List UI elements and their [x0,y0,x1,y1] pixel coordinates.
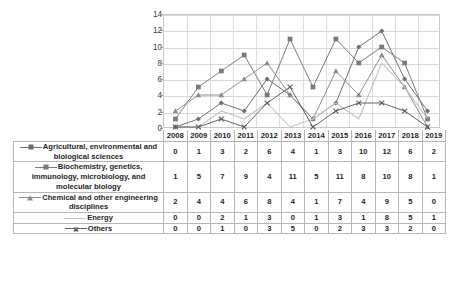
y-axis-tick-mark [160,47,163,48]
table-cell: 0 [164,213,188,224]
y-axis-tick-mark [160,30,163,31]
legend-swatch: ✖ [65,225,87,232]
series-marker [196,85,201,90]
table-cell: 2 [399,223,423,234]
table-cell: 8 [375,213,399,224]
table-corner-cell [14,130,164,142]
table-cell: 0 [422,223,446,234]
table-cell: 4 [211,192,235,212]
table-cell: 0 [187,223,211,234]
table-cell: 1 [211,223,235,234]
table-cell: 1 [422,213,446,224]
table-cell: 4 [258,162,282,192]
series-marker [379,52,385,57]
table-cell: 0 [187,213,211,224]
table-cell: 1 [422,162,446,192]
x-marker-icon: ✖ [73,225,79,232]
table-column-header-2017: 2017 [375,130,399,142]
table-cell: 1 [305,213,329,224]
series-marker [288,37,293,42]
table-cell: 4 [281,142,305,162]
table-cell: 3 [328,213,352,224]
table-cell: 4 [352,192,376,212]
series-marker [379,45,384,50]
table-cell: 2 [234,142,258,162]
series-label-cell: Agricultural, environmental and biologic… [14,142,164,162]
series-marker [333,37,338,42]
table-cell: 0 [422,192,446,212]
table-cell: 3 [328,142,352,162]
table-cell: 3 [375,223,399,234]
series-label-cell: Energy [14,213,164,224]
series-1 [173,28,430,129]
table-cell: 9 [375,192,399,212]
series-label-cell: ✖ Others [14,223,164,234]
series-marker [219,69,224,74]
table-cell: 2 [211,213,235,224]
y-axis-tick-label: 2 [142,107,162,116]
y-axis-tick-label: 10 [142,42,162,51]
table-column-header-2015: 2015 [328,130,352,142]
y-axis-tick-mark [160,63,163,64]
y-axis-tick-mark [160,14,163,15]
table-cell: 7 [328,192,352,212]
y-axis-tick-label: 14 [142,10,162,19]
series-marker [264,60,270,65]
table-cell: 1 [305,192,329,212]
data-table: 2008200920102011201220132014201520162017… [13,130,446,234]
table-cell: 4 [281,192,305,212]
series-label-cell: Biochemistry, genetics, immunology, micr… [14,162,164,192]
legend-swatch [20,144,42,151]
table-cell: 12 [375,142,399,162]
y-axis-tick-mark [160,79,163,80]
legend-line [64,218,86,219]
data-table-region: 2008200920102011201220132014201520162017… [13,130,445,234]
series-marker [242,53,247,58]
table-cell: 10 [375,162,399,192]
square-marker-icon [43,165,48,170]
table-cell: 3 [352,223,376,234]
table-cell: 6 [258,142,282,162]
table-cell: 10 [352,142,376,162]
series-marker [241,76,247,81]
table-cell: 1 [305,142,329,162]
table-cell: 1 [234,213,258,224]
series-marker [288,85,293,90]
table-cell: 5 [399,192,423,212]
table-cell: 6 [399,142,423,162]
series-marker [265,101,270,106]
legend-swatch [64,215,86,222]
table-column-header-2013: 2013 [281,130,305,142]
series-line [175,87,427,127]
table-cell: 3 [211,142,235,162]
table-cell: 1 [352,213,376,224]
table-cell: 4 [187,192,211,212]
table-column-header-2009: 2009 [187,130,211,142]
table-column-header-2014: 2014 [305,130,329,142]
table-cell: 0 [281,213,305,224]
table-column-header-2019: 2019 [422,130,446,142]
series-marker [173,117,178,122]
table-cell: 5 [305,162,329,192]
series-label: Chemical and other engineering disciplin… [42,193,158,212]
series-label-cell: Chemical and other engineering disciplin… [14,192,164,212]
table-cell: 7 [211,162,235,192]
series-marker [333,68,339,73]
table-column-header-2008: 2008 [164,130,188,142]
series-line [175,31,427,127]
table-row: Biochemistry, genetics, immunology, micr… [14,162,446,192]
table-column-header-2011: 2011 [234,130,258,142]
series-marker [310,125,315,130]
series-label: Energy [87,213,113,222]
series-marker [242,125,247,130]
y-axis-tick-mark [160,112,163,113]
table-cell: 0 [234,223,258,234]
table-cell: 0 [305,223,329,234]
series-lines [164,15,439,127]
table-cell: 11 [281,162,305,192]
series-marker [402,61,407,66]
triangle-marker-icon [27,195,33,200]
table-row: Chemical and other engineering disciplin… [14,192,446,212]
table-row: Energy002130131851 [14,213,446,224]
table-column-header-2012: 2012 [258,130,282,142]
